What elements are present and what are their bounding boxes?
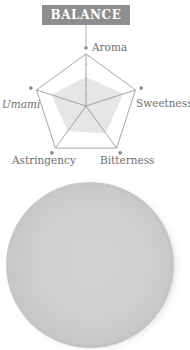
- label-sweetness: Sweetness: [136, 97, 190, 109]
- data-area: [51, 77, 123, 133]
- tick-mark: [85, 85, 86, 86]
- marker-sweetness: [139, 86, 143, 90]
- axis-spokes: [37, 54, 136, 148]
- radar-chart: [0, 0, 190, 175]
- label-aroma: Aroma: [92, 41, 127, 53]
- label-umami: Umami: [2, 98, 40, 110]
- tick-mark: [85, 64, 86, 65]
- plate-rim: [10, 184, 176, 348]
- label-bitterness: Bitterness: [100, 154, 155, 166]
- marker-aroma: [84, 46, 88, 50]
- tick-mark: [85, 95, 86, 96]
- tick-mark: [85, 74, 86, 75]
- label-astringency: Astringency: [12, 154, 76, 166]
- marker-umami: [29, 86, 33, 90]
